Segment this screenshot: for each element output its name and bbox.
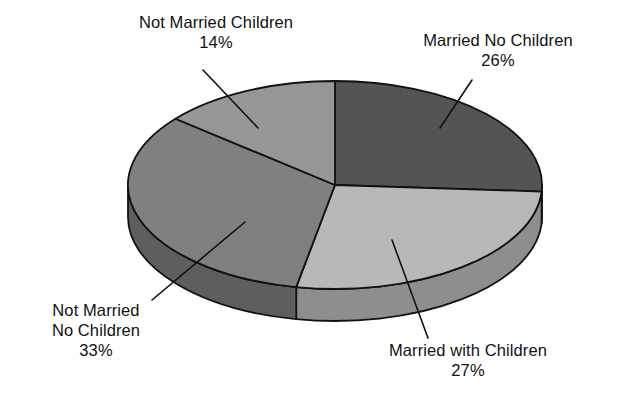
slice-label-percent: 27% (348, 360, 588, 380)
slice-label-percent: 33% (8, 340, 184, 360)
slice-label-married-with-children: Married with Children 27% (348, 340, 588, 380)
slice-label-text: Married No Children (382, 30, 614, 50)
slice-label-text-line1: Not Married (8, 300, 184, 320)
slice-label-percent: 26% (382, 50, 614, 70)
slice-label-text-line2: No Children (8, 320, 184, 340)
slice-label-percent: 14% (88, 32, 344, 52)
slice-label-not-married-no-children: Not Married No Children 33% (8, 300, 184, 360)
pie-slice-married-no-children (335, 81, 542, 192)
slice-label-married-no-children: Married No Children 26% (382, 30, 614, 70)
pie-chart-figure: Not Married Children 14% Married No Chil… (0, 0, 620, 398)
slice-label-not-married-children: Not Married Children 14% (88, 12, 344, 52)
slice-label-text: Not Married Children (88, 12, 344, 32)
slice-label-text: Married with Children (348, 340, 588, 360)
